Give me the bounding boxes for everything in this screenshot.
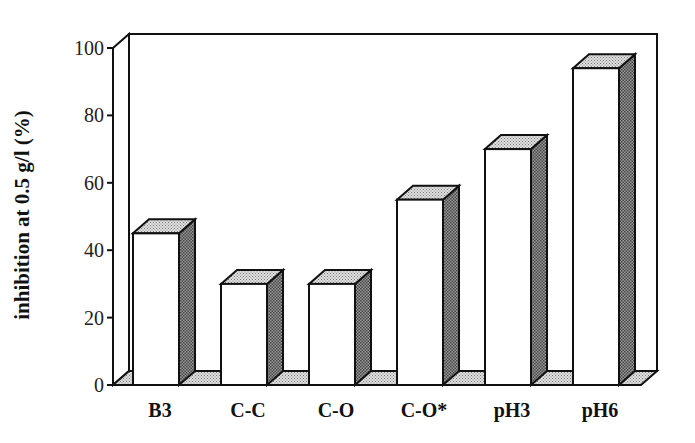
y-axis-label: inhibition at 0.5 g/l (%) (10, 110, 35, 319)
x-tick-label: C-O (318, 399, 355, 421)
y-axis: 020406080100 (74, 37, 113, 396)
x-tick-label: pH6 (582, 399, 619, 422)
bar-ph3 (485, 135, 547, 385)
y-tick-label: 80 (84, 104, 104, 126)
bar-ph6 (573, 54, 635, 385)
y-tick-label: 60 (84, 172, 104, 194)
x-tick-label: pH3 (494, 399, 531, 422)
bar-co (397, 186, 459, 385)
y-tick-label: 40 (84, 239, 104, 261)
x-tick-label: C-C (230, 399, 266, 421)
bar-cc (221, 270, 283, 385)
bar-b3 (133, 219, 195, 385)
y-tick-label: 0 (94, 374, 104, 396)
y-tick-label: 100 (74, 37, 104, 59)
x-tick-label: B3 (148, 399, 171, 421)
bar-co (309, 270, 371, 385)
x-tick-label: C-O* (401, 399, 448, 421)
x-axis-labels: B3C-CC-OC-O*pH3pH6 (148, 399, 618, 422)
y-tick-label: 20 (84, 307, 104, 329)
bar-chart: 020406080100 B3C-CC-OC-O*pH3pH6 (0, 0, 695, 443)
